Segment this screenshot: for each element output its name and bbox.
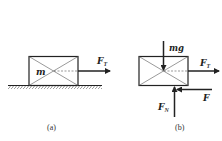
gravity-label: mg (169, 43, 184, 53)
panel-a: m FT (a) (8, 56, 110, 132)
caption-b: (b) (175, 123, 185, 132)
tension-label-b: FT (199, 58, 210, 69)
panel-b: mg FT F FN (b) (139, 41, 219, 132)
mass-label-a: m (36, 67, 46, 77)
friction-label: F (202, 93, 210, 103)
free-body-diagram-figure: m FT (a) mg FT F FN (b) (0, 0, 222, 141)
caption-a: (a) (47, 123, 56, 132)
tension-label-a: FT (96, 56, 107, 67)
normal-label: FN (157, 102, 169, 113)
